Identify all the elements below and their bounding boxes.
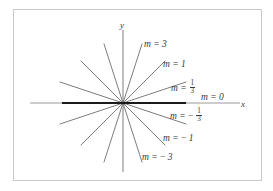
slope-label-neg-3: m = − 3 [142,153,173,163]
minus-sign: − [188,111,193,121]
m-symbol: m [142,152,149,162]
equals-sign: = [180,83,186,93]
slope-label-neg-1: m = − 1 [163,134,194,144]
slope-label-3: m = 3 [144,40,167,50]
y-axis-label: y [120,21,124,30]
m-symbol: m [163,133,170,143]
slope-lines-plot [0,0,273,191]
slope-label-neg-one-third: m = − 1 3 [170,108,202,124]
slope-value-neg-3: 3 [168,152,173,162]
slope-label-1: m = 1 [163,60,186,70]
slope-label-0: m = 0 [201,93,224,103]
m-symbol: m [163,59,170,69]
equals-sign: = [172,133,178,143]
fraction-denominator: 3 [196,116,202,123]
equals-sign: = [179,111,185,121]
equals-sign: = [153,39,159,49]
fraction-denominator: 3 [190,88,196,95]
slope-value-1: 1 [181,59,186,69]
fraction-one-third: 1 3 [190,80,196,96]
minus-sign: − [160,152,165,162]
slope-value-neg-1: 1 [189,133,194,143]
m-symbol: m [201,92,208,102]
equals-sign: = [151,152,157,162]
m-symbol: m [170,111,177,121]
slope-value-3: 3 [162,39,167,49]
x-axis-label: x [241,100,245,109]
figure-root: y x m = 3 m = 1 m = 1 3 m = 0 m = − 1 3 [0,0,273,191]
m-symbol: m [144,39,151,49]
minus-sign: − [181,133,186,143]
slope-value-0: 0 [219,92,224,102]
m-symbol: m [171,83,178,93]
equals-sign: = [210,92,216,102]
equals-sign: = [172,59,178,69]
fraction-one-third: 1 3 [196,108,202,124]
slope-label-one-third: m = 1 3 [171,80,195,96]
